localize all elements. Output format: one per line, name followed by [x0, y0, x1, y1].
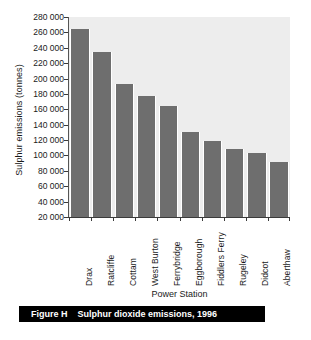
bar-slot: [246, 17, 268, 217]
y-axis-tick-label: 20 000: [20, 212, 64, 222]
x-axis-label-rugeley: Rugeley: [238, 254, 248, 286]
y-axis-tick-labels: 280 000260 000240 000220 000200 000180 0…: [20, 17, 64, 217]
figure-caption-label: Figure H: [31, 309, 68, 319]
bar-slot: [268, 17, 290, 217]
bar-ferrybridge: [159, 106, 178, 217]
x-axis-label-west-burton: West Burton: [150, 238, 160, 286]
figure-container: Sulphur emissions (tonnes) 280 000260 00…: [0, 0, 311, 340]
y-axis-tick-label: 260 000: [20, 27, 64, 37]
bar-slot: [224, 17, 246, 217]
bar-slot: [113, 17, 135, 217]
y-axis-tick-label: 200 000: [20, 74, 64, 84]
x-axis-label-eggborough: Eggborough: [194, 239, 204, 286]
x-axis-label-fiddlers-ferry: Fiddlers Ferry: [216, 232, 226, 286]
x-axis-tick-mark: [289, 218, 290, 221]
bar-drax: [70, 29, 89, 217]
x-axis-title: Power Station: [69, 289, 290, 299]
x-axis-label-ratcliffe: Ratcliffe: [106, 255, 116, 286]
x-axis-label-drax: Drax: [84, 268, 94, 286]
y-axis-tick-label: 180 000: [20, 89, 64, 99]
x-axis-tick-mark: [113, 218, 114, 221]
x-axis-tick-mark: [246, 218, 247, 221]
x-axis-tick-mark: [180, 218, 181, 221]
x-axis-label-ferrybridge: Ferrybridge: [172, 241, 182, 286]
bar-rugeley: [225, 149, 244, 217]
y-axis-tick-label: 140 000: [20, 120, 64, 130]
x-axis-tick-mark: [202, 218, 203, 221]
bar-didcot: [247, 153, 266, 217]
figure-caption-text: Sulphur dioxide emissions, 1996: [78, 309, 218, 319]
x-axis-tick-mark: [135, 218, 136, 221]
bar-slot: [91, 17, 113, 217]
x-axis-tick-mark: [268, 218, 269, 221]
x-axis-category-labels: DraxRatcliffeCottamWest BurtonFerrybridg…: [69, 222, 290, 288]
y-axis-tick-label: 120 000: [20, 135, 64, 145]
bar-slot: [69, 17, 91, 217]
bar-cottam: [115, 84, 134, 217]
x-axis-label-aberthaw: Aberthaw: [282, 249, 292, 286]
y-axis-tick-label: 220 000: [20, 58, 64, 68]
bar-aberthaw: [269, 162, 288, 217]
x-axis-label-didcot: Didcot: [260, 261, 270, 286]
figure-caption-bar: Figure H Sulphur dioxide emissions, 1996: [19, 306, 265, 322]
y-axis-tick-label: 80 000: [20, 166, 64, 176]
y-axis-tick-label: 280 000: [20, 12, 64, 22]
bar-slot: [135, 17, 157, 217]
y-axis-tick-label: 100 000: [20, 150, 64, 160]
y-axis-tick-label: 160 000: [20, 104, 64, 114]
y-axis-tick-label: 60 000: [20, 181, 64, 191]
bar-eggborough: [181, 132, 200, 217]
bar-fiddlers-ferry: [203, 141, 222, 217]
bar-slot: [157, 17, 179, 217]
y-axis-tick-label: 40 000: [20, 197, 64, 207]
x-axis-tick-mark: [224, 218, 225, 221]
x-axis-tick-mark: [69, 218, 70, 221]
plot-area: [69, 17, 290, 217]
x-axis-label-cottam: Cottam: [128, 258, 138, 286]
bar-slot: [179, 17, 201, 217]
x-axis-tick-mark: [91, 218, 92, 221]
bar-slot: [202, 17, 224, 217]
bar-ratcliffe: [92, 52, 111, 217]
bar-series: [69, 17, 290, 217]
bar-west-burton: [137, 96, 156, 217]
x-axis-tick-mark: [157, 218, 158, 221]
y-axis-tick-label: 240 000: [20, 43, 64, 53]
